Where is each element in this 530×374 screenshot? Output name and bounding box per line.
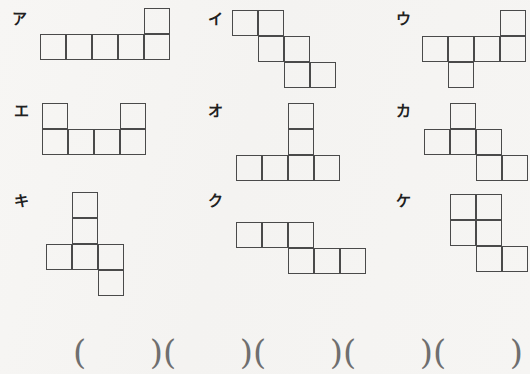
answer-slot-2[interactable]: (): [163, 330, 253, 374]
net-cell: [450, 194, 476, 220]
net-cell: [314, 155, 340, 181]
net-cell: [236, 222, 262, 248]
net-cell: [258, 36, 284, 62]
net-cell: [144, 34, 170, 60]
net-cell: [262, 222, 288, 248]
net-cell: [502, 246, 528, 272]
net-cell: [72, 192, 98, 218]
net-cell: [94, 129, 120, 155]
net-cell: [72, 218, 98, 244]
answer-slot-3[interactable]: (): [253, 330, 343, 374]
open-paren: (: [433, 335, 446, 369]
open-paren: (: [253, 335, 266, 369]
net-cell: [424, 129, 450, 155]
net-cell: [284, 36, 310, 62]
net-cell: [120, 103, 146, 129]
shape-ka-label: カ: [396, 104, 411, 119]
net-cell: [288, 248, 314, 274]
net-cell: [450, 129, 476, 155]
net-cell: [46, 244, 72, 270]
net-cell: [92, 34, 118, 60]
answer-input-3[interactable]: [266, 352, 329, 353]
close-paren: ): [510, 335, 523, 369]
net-cell: [232, 10, 258, 36]
net-cell: [288, 155, 314, 181]
net-cell: [340, 248, 366, 274]
open-paren: (: [73, 335, 86, 369]
net-cell: [450, 220, 476, 246]
shape-ki-label: キ: [14, 194, 29, 209]
net-cell: [262, 155, 288, 181]
net-cell: [476, 194, 502, 220]
net-cell: [476, 129, 502, 155]
net-cell: [236, 155, 262, 181]
net-cell: [40, 34, 66, 60]
net-cell: [310, 62, 336, 88]
net-cell: [98, 270, 124, 296]
net-cell: [500, 36, 526, 62]
net-cell: [448, 62, 474, 88]
net-cell: [502, 155, 528, 181]
net-cell: [476, 155, 502, 181]
open-paren: (: [343, 335, 356, 369]
shape-ke-label: ケ: [396, 194, 411, 209]
shape-i-label: イ: [208, 12, 223, 27]
net-cell: [474, 36, 500, 62]
close-paren: ): [150, 335, 163, 369]
net-cell: [288, 222, 314, 248]
answer-slot-4[interactable]: (): [343, 330, 433, 374]
shape-u-label: ウ: [396, 12, 411, 27]
net-cell: [448, 36, 474, 62]
net-cell: [42, 103, 68, 129]
net-cell: [314, 248, 340, 274]
answer-slot-1[interactable]: (): [73, 330, 163, 374]
open-paren: (: [163, 335, 176, 369]
shape-o-label: オ: [208, 104, 223, 119]
net-cell: [476, 220, 502, 246]
net-cell: [144, 8, 170, 34]
net-cell: [284, 62, 310, 88]
shape-a-label: ア: [12, 12, 27, 27]
close-paren: ): [420, 335, 433, 369]
net-cell: [42, 129, 68, 155]
answers-row: ()()()()(): [0, 330, 530, 374]
net-cell: [288, 103, 314, 129]
close-paren: ): [330, 335, 343, 369]
net-cell: [258, 10, 284, 36]
net-cell: [288, 129, 314, 155]
shape-e-label: エ: [14, 104, 29, 119]
answer-input-2[interactable]: [176, 352, 239, 353]
net-cell: [68, 129, 94, 155]
net-cell: [450, 103, 476, 129]
net-cell: [476, 246, 502, 272]
answer-slot-5[interactable]: (): [433, 330, 523, 374]
worksheet-page: アイウエオカキクケ ()()()()(): [0, 0, 530, 374]
net-cell: [422, 36, 448, 62]
close-paren: ): [240, 335, 253, 369]
net-cell: [118, 34, 144, 60]
answer-input-5[interactable]: [446, 352, 509, 353]
net-cell: [72, 244, 98, 270]
shape-ku-label: ク: [208, 194, 223, 209]
net-cell: [120, 129, 146, 155]
answer-input-1[interactable]: [86, 352, 149, 353]
net-cell: [98, 244, 124, 270]
net-cell: [500, 10, 526, 36]
answer-input-4[interactable]: [356, 352, 419, 353]
net-cell: [66, 34, 92, 60]
